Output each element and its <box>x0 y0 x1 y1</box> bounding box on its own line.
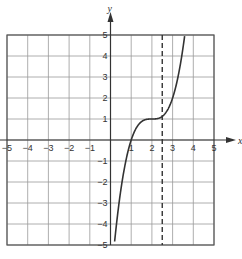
y-tick-label: −3 <box>97 198 107 208</box>
y-tick-label: −4 <box>97 219 107 229</box>
x-axis-label: x <box>237 135 242 146</box>
y-tick-label: −2 <box>97 177 107 187</box>
x-tick-label: −3 <box>43 143 53 153</box>
x-axis-arrow-icon <box>226 137 236 143</box>
x-tick-label: 5 <box>211 143 216 153</box>
chart: xy−5−4−3−2−11234554321−1−2−3−4−5 <box>0 0 242 259</box>
y-tick-label: 5 <box>102 30 107 40</box>
x-tick-label: 4 <box>191 143 196 153</box>
y-tick-label: 1 <box>102 114 107 124</box>
x-tick-label: −5 <box>2 143 12 153</box>
y-tick-label: 3 <box>102 72 107 82</box>
y-tick-label: 4 <box>102 51 107 61</box>
x-tick-label: −2 <box>64 143 74 153</box>
x-tick-label: −4 <box>23 143 33 153</box>
y-tick-label: 2 <box>102 93 107 103</box>
x-tick-label: 2 <box>149 143 154 153</box>
y-axis-label: y <box>107 3 113 14</box>
y-tick-label: −5 <box>97 240 107 250</box>
function-curve <box>115 36 185 241</box>
x-tick-label: 3 <box>170 143 175 153</box>
y-tick-label: −1 <box>97 156 107 166</box>
x-tick-label: −1 <box>85 143 95 153</box>
